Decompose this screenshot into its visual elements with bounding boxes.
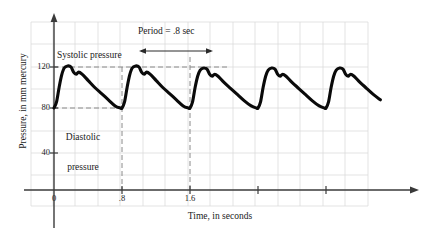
y-tick-label-120: 120 — [24, 62, 50, 71]
pressure-waveform — [54, 66, 380, 109]
diastolic-pressure-annotation: Diastolic pressure — [56, 113, 110, 193]
y-tick-label-40: 40 — [24, 148, 50, 157]
diastolic-annotation-line-1: Diastolic — [56, 133, 110, 143]
y-tick-label-80: 80 — [24, 103, 50, 112]
diastolic-annotation-line-2: pressure — [56, 163, 110, 173]
x-tick-label-0: 0 — [41, 194, 67, 203]
x-tick-label-08: .8 — [109, 194, 135, 203]
x-axis-label: Time, in seconds — [161, 212, 279, 222]
period-arrow — [139, 48, 213, 54]
y-axis-label: Pressure, in mm mercury — [19, 36, 29, 166]
blood-pressure-chart: Pressure, in mm mercury Time, in seconds… — [0, 0, 421, 238]
x-tick-label-16: 1.6 — [177, 194, 203, 203]
period-annotation: Period = .8 sec — [138, 27, 195, 37]
systolic-pressure-annotation: Systolic pressure — [57, 51, 122, 61]
